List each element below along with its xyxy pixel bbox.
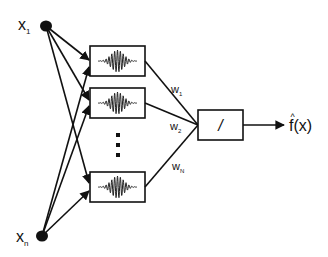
wavelet-network-diagram: x1 xn w1 w2 wN / f(x) ^ — [0, 0, 328, 257]
input-label-xn: xn — [16, 228, 28, 248]
ellipsis-dots — [116, 133, 120, 157]
weight-label-wN: wN — [171, 160, 184, 174]
weight-label-w2: w2 — [169, 120, 182, 134]
ellipsis-dot — [116, 143, 120, 147]
edge-xn-unit1 — [42, 67, 89, 236]
input-label-x1: x1 — [18, 16, 31, 36]
edge-x1-unit1 — [46, 26, 89, 60]
weight-edge-N — [145, 125, 198, 187]
ellipsis-dot — [116, 133, 120, 137]
edge-xn-unit2 — [42, 106, 89, 236]
weight-label-w1: w1 — [170, 83, 183, 97]
ellipsis-dot — [116, 153, 120, 157]
edge-x1-unitN — [46, 26, 89, 183]
